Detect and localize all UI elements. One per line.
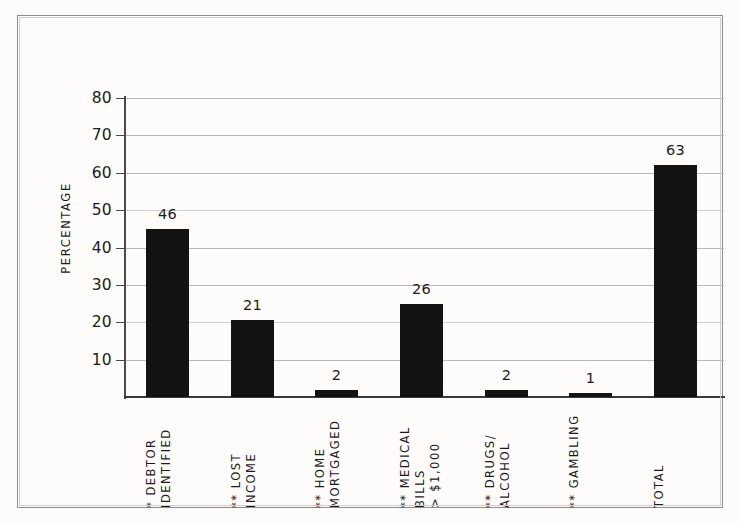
bar	[231, 320, 274, 397]
bar	[654, 165, 697, 397]
bar-value-label: 2	[295, 367, 378, 383]
x-axis-category-line: INCOME	[244, 453, 259, 508]
gridline-70	[126, 135, 724, 136]
x-axis-category-label: ** DRUGS/ALCOHOL	[483, 434, 513, 508]
bar-value-label: 26	[380, 281, 463, 297]
x-axis-category-line: ALCOHOL	[498, 434, 513, 508]
x-axis-category-label: ** LOSTINCOME	[229, 453, 259, 508]
y-tick-label-wrap-10: 10	[54, 351, 112, 369]
x-axis-category-line: ** LOST	[229, 453, 244, 508]
x-axis-category-line: ** MEDICAL	[398, 426, 413, 508]
bar-value-label: 1	[549, 370, 632, 386]
bar	[569, 393, 612, 397]
y-tick-label-70: 70	[66, 126, 112, 144]
plot-area: 46212262163	[126, 98, 724, 397]
y-tick-label-wrap-60: 60	[54, 164, 112, 182]
y-tick-label-10: 10	[66, 351, 112, 369]
y-tick-mark-60	[116, 173, 125, 174]
x-axis-category-label: * DEBTORIDENTIFIED	[144, 428, 174, 508]
y-tick-label-60: 60	[66, 164, 112, 182]
bar-value-label: 2	[465, 367, 548, 383]
y-tick-mark-70	[116, 135, 125, 136]
gridline-40	[126, 248, 724, 249]
x-axis-category-line: MORTGAGED	[328, 420, 343, 508]
x-axis-category-line: * DEBTOR	[144, 428, 159, 508]
bar	[146, 229, 189, 397]
x-axis-category-line: IDENTIFIED	[159, 428, 174, 508]
y-tick-label-30: 30	[66, 276, 112, 294]
bar	[315, 390, 358, 397]
y-tick-mark-50	[116, 210, 125, 211]
x-axis-category-line: ** HOME	[313, 420, 328, 508]
x-axis-category-line: ** GAMBLING	[567, 414, 582, 508]
bar	[485, 390, 528, 397]
y-tick-mark-30	[116, 285, 125, 286]
bar-value-label: 63	[634, 142, 717, 158]
x-axis-category-line: ** DRUGS/	[483, 434, 498, 508]
y-tick-mark-10	[116, 360, 125, 361]
y-tick-label-wrap-30: 30	[54, 276, 112, 294]
gridline-60	[126, 173, 724, 174]
bar-value-label: 21	[211, 297, 294, 313]
y-tick-label-20: 20	[66, 313, 112, 331]
y-tick-label-wrap-70: 70	[54, 126, 112, 144]
y-tick-label-wrap-80: 80	[54, 89, 112, 107]
chart-frame-border: PERCENTAGE 46212262163 1020304050607080 …	[17, 15, 723, 508]
x-axis-category-label: TOTAL	[652, 464, 667, 508]
y-tick-label-wrap-20: 20	[54, 313, 112, 331]
chart-figure: PERCENTAGE 46212262163 1020304050607080 …	[0, 0, 739, 522]
x-axis-category-line: TOTAL	[652, 464, 667, 508]
bar-value-label: 46	[126, 206, 209, 222]
bar	[400, 304, 443, 397]
x-axis-category-label: ** HOMEMORTGAGED	[313, 420, 343, 508]
y-tick-label-wrap-50: 50	[54, 201, 112, 219]
gridline-50	[126, 210, 724, 211]
y-tick-label-80: 80	[66, 89, 112, 107]
x-axis-category-line: > $1,000	[428, 426, 443, 508]
gridline-80	[126, 98, 724, 99]
y-tick-label-50: 50	[66, 201, 112, 219]
y-tick-mark-40	[116, 248, 125, 249]
y-tick-label-40: 40	[66, 239, 112, 257]
x-axis-category-label: ** MEDICALBILLS> $1,000	[398, 426, 443, 508]
x-axis-category-label: ** GAMBLING	[567, 414, 582, 508]
y-tick-label-wrap-40: 40	[54, 239, 112, 257]
y-tick-mark-80	[116, 98, 125, 99]
y-tick-mark-20	[116, 322, 125, 323]
x-axis-category-line: BILLS	[413, 426, 428, 508]
